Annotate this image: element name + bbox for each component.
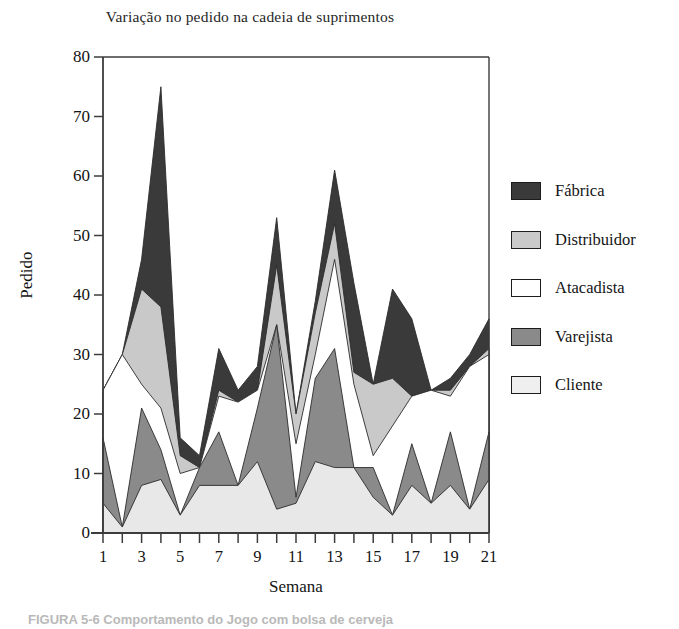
y-tick-label: 70 <box>40 108 90 125</box>
y-tick-label: 50 <box>40 227 90 244</box>
legend-item-cliente[interactable]: Cliente <box>511 372 679 398</box>
legend: FábricaDistribuidorAtacadistaVarejistaCl… <box>511 178 679 421</box>
legend-swatch-icon <box>511 231 541 249</box>
legend-label: Cliente <box>555 375 603 395</box>
x-tick-label: 11 <box>276 549 316 566</box>
series-layers <box>103 87 489 533</box>
y-tick-label: 60 <box>40 167 90 184</box>
figure-supply-chain-variation: Variação no pedido na cadeia de suprimen… <box>0 0 679 629</box>
legend-label: Fábrica <box>555 181 604 201</box>
y-tick-label: 20 <box>40 405 90 422</box>
legend-swatch-icon <box>511 182 541 200</box>
x-tick-label: 21 <box>469 549 509 566</box>
y-tick-label: 80 <box>40 48 90 65</box>
y-tick-label: 0 <box>40 524 90 541</box>
x-tick-label: 15 <box>353 549 393 566</box>
x-tick-label: 19 <box>430 549 470 566</box>
legend-item-atacadista[interactable]: Atacadista <box>511 275 679 301</box>
legend-label: Atacadista <box>555 278 625 298</box>
x-tick-label: 1 <box>83 549 123 566</box>
legend-label: Varejista <box>555 327 613 347</box>
x-tick-label: 7 <box>199 549 239 566</box>
legend-swatch-icon <box>511 279 541 297</box>
x-tick-label: 9 <box>237 549 277 566</box>
x-tick-label: 17 <box>392 549 432 566</box>
legend-item-fbrica[interactable]: Fábrica <box>511 178 679 204</box>
y-tick-label: 30 <box>40 346 90 363</box>
legend-swatch-icon <box>511 328 541 346</box>
x-tick-label: 5 <box>160 549 200 566</box>
y-tick-label: 10 <box>40 465 90 482</box>
legend-item-varejista[interactable]: Varejista <box>511 324 679 350</box>
x-axis-label: Semana <box>103 577 489 597</box>
x-tick-label: 3 <box>122 549 162 566</box>
x-tick-label: 13 <box>315 549 355 566</box>
figure-caption: FIGURA 5-6 Comportamento do Jogo com bol… <box>28 612 648 629</box>
y-tick-label: 40 <box>40 286 90 303</box>
legend-item-distribuidor[interactable]: Distribuidor <box>511 227 679 253</box>
y-axis-label: Pedido <box>17 230 37 320</box>
legend-label: Distribuidor <box>555 230 636 250</box>
legend-swatch-icon <box>511 376 541 394</box>
